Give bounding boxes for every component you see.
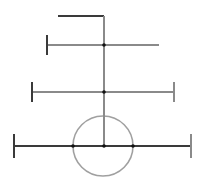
- junction-dot: [102, 43, 106, 47]
- junction-dot: [102, 90, 106, 94]
- symbol-diagram: [0, 0, 205, 191]
- diagram-canvas: [0, 0, 205, 191]
- junction-dot: [102, 144, 106, 148]
- junction-dot: [71, 144, 75, 148]
- junction-dot: [131, 144, 135, 148]
